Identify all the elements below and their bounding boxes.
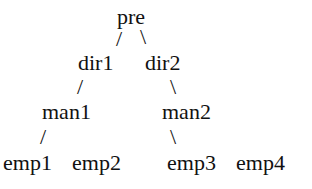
node-emp4: emp4 xyxy=(236,152,285,174)
node-dir2: dir2 xyxy=(145,52,180,74)
node-emp3: emp3 xyxy=(167,152,216,174)
node-man2: man2 xyxy=(162,101,211,123)
edge-man1-emp1: / xyxy=(40,126,46,148)
node-emp2: emp2 xyxy=(72,152,121,174)
edge-dir2-man2: \ xyxy=(170,76,176,98)
edge-pre-dir2: \ xyxy=(140,26,146,48)
node-man1: man1 xyxy=(42,101,91,123)
edge-man2-emp3: \ xyxy=(170,126,176,148)
edge-pre-dir1: / xyxy=(116,28,122,50)
node-emp1: emp1 xyxy=(3,152,52,174)
tree-diagram: pre / \ dir1 dir2 / \ man1 man2 / \ emp1… xyxy=(0,0,312,189)
edge-dir1-man1: / xyxy=(77,76,83,98)
node-dir1: dir1 xyxy=(78,52,113,74)
